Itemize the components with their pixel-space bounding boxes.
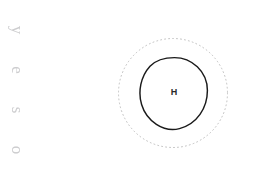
margin-char-1: y	[6, 20, 26, 40]
concentric-circle-diagram: H	[117, 37, 229, 149]
margin-char-3: s	[6, 100, 26, 120]
inner-circle-label: H	[118, 36, 230, 148]
margin-char-4: o	[6, 140, 26, 160]
margin-watermark-text: y e s o	[2, 20, 30, 160]
scanned-diagram-canvas: y e s o H	[0, 0, 254, 171]
margin-char-2: e	[6, 60, 26, 80]
